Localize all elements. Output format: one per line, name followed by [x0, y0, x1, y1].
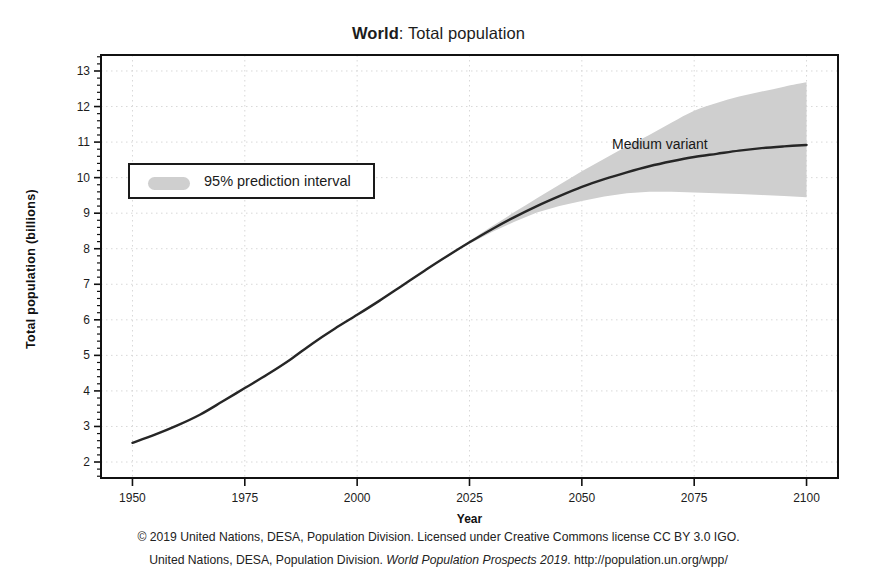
prediction-interval-band	[447, 82, 807, 256]
svg-text:10: 10	[77, 171, 91, 185]
svg-text:2025: 2025	[456, 491, 483, 505]
chart-title-measure: : Total population	[399, 24, 525, 42]
svg-text:11: 11	[78, 135, 91, 149]
svg-text:13: 13	[77, 64, 91, 78]
annotation-medium-variant: Medium variant	[612, 136, 708, 152]
legend-swatch-prediction-interval	[148, 177, 190, 190]
svg-text:5: 5	[83, 348, 90, 362]
plot-canvas: 2345678910111213195019752000202520502075…	[0, 0, 877, 582]
svg-text:2100: 2100	[793, 491, 820, 505]
svg-text:1975: 1975	[231, 491, 258, 505]
svg-text:4: 4	[83, 384, 90, 398]
legend[interactable]: 95% prediction interval	[128, 163, 375, 199]
svg-text:7: 7	[83, 277, 90, 291]
caption-source-prefix: United Nations, DESA, Population Divisio…	[149, 553, 386, 567]
svg-text:1950: 1950	[119, 491, 146, 505]
chart-title: World: Total population	[0, 24, 877, 43]
caption-source-url: . http://population.un.org/wpp/	[567, 553, 728, 567]
svg-text:2050: 2050	[568, 491, 595, 505]
chart-title-region: World	[352, 24, 399, 42]
svg-text:3: 3	[83, 419, 90, 433]
svg-text:9: 9	[83, 206, 90, 220]
caption-source-title: World Population Prospects 2019	[386, 553, 567, 567]
svg-text:8: 8	[83, 242, 90, 256]
svg-text:2: 2	[83, 455, 90, 469]
x-axis-label: Year	[101, 512, 838, 526]
svg-text:2075: 2075	[681, 491, 708, 505]
svg-text:12: 12	[77, 100, 91, 114]
svg-text:6: 6	[83, 313, 90, 327]
caption-copyright: © 2019 United Nations, DESA, Population …	[0, 530, 877, 544]
caption-source: United Nations, DESA, Population Divisio…	[0, 553, 877, 567]
y-axis-label: Total population (billions)	[24, 129, 38, 409]
legend-label-prediction-interval: 95% prediction interval	[204, 173, 351, 189]
svg-text:2000: 2000	[344, 491, 371, 505]
population-chart-figure: World: Total population Total population…	[0, 0, 877, 582]
